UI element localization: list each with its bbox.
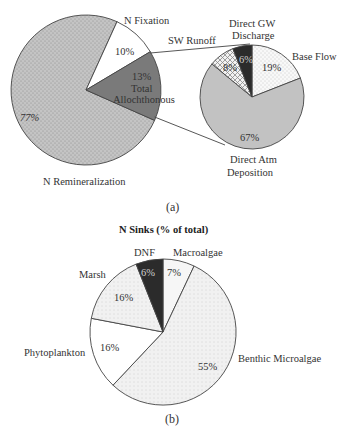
pie-b <box>90 259 236 405</box>
label-marsh: Marsh <box>79 269 107 280</box>
pct-n-fixation: 10% <box>115 46 135 57</box>
pct-macroalgae: 7% <box>167 267 181 278</box>
label-dnf: DNF <box>134 247 155 258</box>
pct-direct-atm: 67% <box>240 132 260 143</box>
label-n-fixation: N Fixation <box>124 15 170 26</box>
label-base-flow: Base Flow <box>292 51 337 62</box>
caption-b: (b) <box>165 412 179 426</box>
label-phytoplankton: Phytoplankton <box>24 347 86 358</box>
label-gw-line1: Direct GW <box>229 18 275 29</box>
pct-direct-gw: 6% <box>239 54 253 65</box>
pct-total-allochthonous: 13% <box>132 71 152 82</box>
pct-sw-runoff: 8% <box>223 62 237 73</box>
label-benthic-microalgae: Benthic Microalgae <box>238 353 321 364</box>
pct-benthic-microalgae: 55% <box>198 361 218 372</box>
label-atm-line1: Direct Atm <box>230 154 277 165</box>
label-gw-line2: Discharge <box>232 30 275 41</box>
label-n-remineralization: N Remineralization <box>43 176 126 187</box>
label-total-line1: Total <box>131 83 153 94</box>
pct-dnf: 6% <box>141 267 155 278</box>
chart-b-title: N Sinks (% of total) <box>119 224 209 236</box>
label-sw-runoff: SW Runoff <box>168 35 216 46</box>
pct-phytoplankton: 16% <box>100 342 120 353</box>
pct-base-flow: 19% <box>262 62 282 73</box>
label-atm-line2: Deposition <box>227 167 274 178</box>
label-total-line2: Allochthonous <box>113 94 175 105</box>
label-macroalgae: Macroalgae <box>173 247 223 258</box>
pct-marsh: 16% <box>114 292 134 303</box>
pct-n-remineralization: 77% <box>20 112 40 123</box>
figure: N Fixation 10% 13% Total Allochthonous 7… <box>0 0 347 436</box>
caption-a: (a) <box>166 200 179 214</box>
